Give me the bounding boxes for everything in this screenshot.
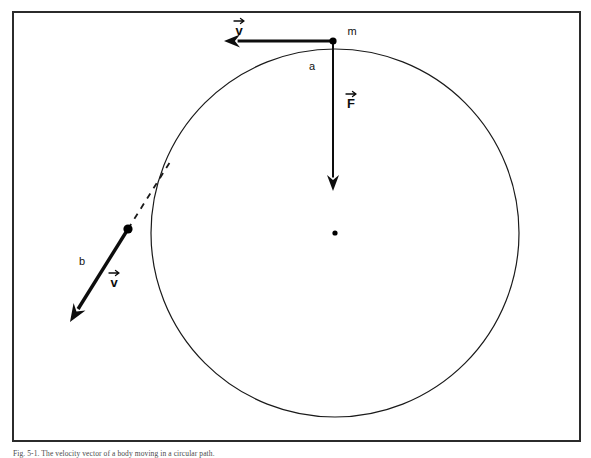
- physics-diagram-canvas: mab vFv: [0, 0, 591, 458]
- point-label-layer: mab: [79, 25, 357, 267]
- force-vector-label-glyph: F: [347, 96, 355, 111]
- velocity-vector-a-label-glyph: v: [235, 23, 243, 38]
- outer-border: [13, 12, 580, 441]
- mass-point-dot: [329, 37, 336, 44]
- position-label-a: a: [309, 60, 316, 72]
- velocity-vector-b-label: v: [109, 270, 119, 290]
- release-point-dot: [123, 224, 132, 233]
- position-label-b: b: [79, 255, 85, 267]
- velocity-vector-b-arrowhead: [70, 303, 85, 322]
- orbit-center-dot: [332, 230, 337, 235]
- figure-root: mab vFv Fig. 5-1. The velocity vector of…: [0, 0, 591, 458]
- figure-caption: Fig. 5-1. The velocity vector of a body …: [13, 449, 215, 458]
- velocity-vector-b-label-glyph: v: [110, 275, 118, 290]
- velocity-vector-a-label: v: [234, 18, 244, 38]
- mass-label-m: m: [347, 25, 356, 37]
- force-vector-label: F: [346, 91, 356, 111]
- vector-label-layer: vFv: [109, 18, 356, 290]
- tangent-extension-dashed-line: [128, 162, 170, 229]
- velocity-vector-b-shaft: [78, 229, 128, 309]
